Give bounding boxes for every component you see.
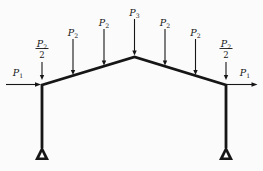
gable-frame-figure: P22P2P2P3P2P2P22P1P1	[0, 0, 263, 171]
load-p2-1-label: P2	[67, 27, 78, 39]
load-p2-half-right-arrow-head	[224, 75, 228, 80]
load-p2-half-left-label-denominator: 2	[39, 50, 44, 60]
gable-frame-diagram: P22P2P2P3P2P2P22P1P1	[0, 0, 263, 171]
load-p1-right-label: P1	[239, 67, 250, 79]
load-p3-apex-label: P3	[128, 7, 139, 19]
load-p3-apex-arrow-head	[132, 51, 136, 56]
load-p1-left-arrow-head	[35, 82, 41, 86]
load-p2-half-right-label-numerator: P2	[220, 38, 231, 50]
load-p2-3-label: P2	[159, 17, 170, 29]
load-p2-2-label: P2	[98, 17, 109, 29]
load-p2-half-left-arrow-head	[40, 75, 44, 80]
load-p1-left-label: P1	[12, 67, 23, 79]
load-p2-4-label: P2	[189, 27, 200, 39]
frame-members	[42, 57, 226, 148]
load-p2-half-right-label-denominator: 2	[223, 50, 228, 60]
load-p2-half-left-label-numerator: P2	[36, 38, 47, 50]
load-p1-right-arrow-head	[252, 82, 258, 86]
